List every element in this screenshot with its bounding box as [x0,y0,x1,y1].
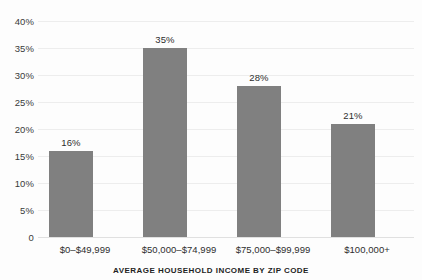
bar[interactable] [331,124,375,237]
x-axis-tick-label: $0–$49,999 [38,244,132,255]
axis-baseline [38,237,414,238]
y-axis-tick-label: 30% [0,70,34,81]
y-axis-tick-label: 15% [0,151,34,162]
bar-value-label: 35% [143,34,187,45]
x-axis-labels: $0–$49,999$50,000–$74,999$75,000–$99,999… [38,244,414,260]
y-axis-tick-label: 20% [0,124,34,135]
bar-group: 16% [38,21,132,237]
y-axis-tick-label: 40% [0,16,34,27]
bars-layer: 16%35%28%21% [38,21,414,237]
bar-group: 21% [320,21,414,237]
bar-value-label: 21% [331,110,375,121]
bar-group: 28% [226,21,320,237]
x-axis-title: AVERAGE HOUSEHOLD INCOME BY ZIP CODE [0,266,422,275]
y-axis-tick-label: 0 [0,232,34,243]
bar[interactable] [49,151,93,237]
bar-group: 35% [132,21,226,237]
x-axis-tick-label: $100,000+ [320,244,414,255]
bar[interactable] [143,48,187,237]
bar[interactable] [237,86,281,237]
y-axis-tick-label: 35% [0,43,34,54]
bar-chart: 16%35%28%21% $0–$49,999$50,000–$74,999$7… [0,0,422,280]
bar-value-label: 28% [237,72,281,83]
y-axis-tick-label: 5% [0,205,34,216]
bar-value-label: 16% [49,137,93,148]
x-axis-tick-label: $50,000–$74,999 [132,244,226,255]
y-axis-tick-label: 10% [0,178,34,189]
x-axis-tick-label: $75,000–$99,999 [226,244,320,255]
y-axis-tick-label: 25% [0,97,34,108]
